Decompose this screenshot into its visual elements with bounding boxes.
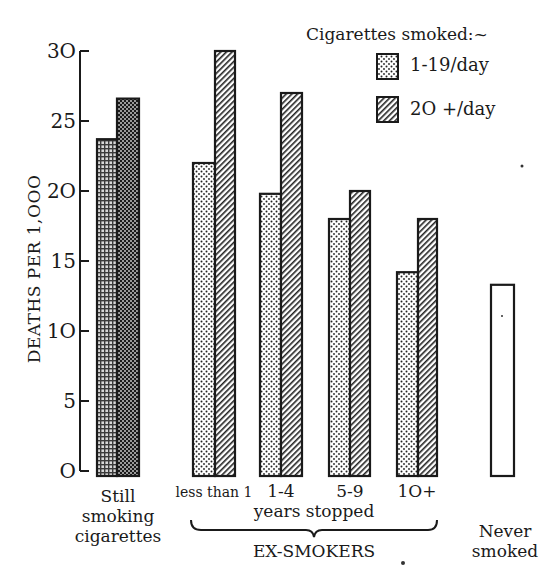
category-label-never-smoked: Never smoked (472, 521, 538, 561)
category-label-still-smoking: Still smoking cigarettes (75, 486, 162, 546)
bar-less-than-1-20-day (215, 51, 235, 476)
bar-never-smoked-never-smoked (491, 285, 514, 476)
bar-still-smoking-cigarettes-1-19-day (97, 139, 117, 476)
y-axis-label: DEATHS PER 1,OOO (24, 175, 44, 364)
legend-swatch-20plus (377, 97, 398, 122)
bar-5-9-1-19-day (329, 219, 350, 476)
category-label-5-9: 5-9 (336, 481, 363, 501)
ex-smokers-brace (191, 520, 437, 537)
ex-smokers-label: EX-SMOKERS (253, 541, 375, 561)
legend-title: Cigarettes smoked:~ (306, 24, 488, 44)
legend-label-1-19: 1-19/day (410, 54, 489, 75)
y-axis: O51O152O253O (47, 39, 89, 483)
legend-label-20plus: 2O +/day (410, 98, 496, 119)
bar-10--20-day (418, 219, 437, 476)
category-label-less-than-1: less than 1 (176, 482, 253, 502)
bar-5-9-20-day (350, 191, 370, 476)
y-tick-label: 15 (51, 249, 76, 273)
bar-still-smoking-cigarettes-20-day (117, 99, 139, 476)
category-label-10plus: 1O+ (398, 481, 437, 501)
y-tick-label: 25 (51, 109, 76, 133)
speck (521, 165, 524, 168)
bar-1-4-20-day (281, 93, 302, 476)
y-tick-label: O (60, 459, 76, 483)
legend (377, 54, 398, 122)
speck (501, 315, 503, 317)
bar-10--1-19-day (397, 272, 418, 476)
y-tick-label: 1O (47, 319, 76, 343)
legend-swatch-1-19 (377, 54, 398, 79)
y-tick-label: 2O (47, 179, 76, 203)
speck (401, 561, 405, 565)
years-stopped-label: years stopped (254, 501, 375, 521)
bar-less-than-1-1-19-day (193, 163, 215, 476)
y-tick-label: 3O (47, 39, 76, 63)
bar-1-4-1-19-day (260, 194, 281, 476)
category-label-1-4: 1-4 (267, 481, 294, 501)
y-tick-label: 5 (63, 389, 76, 413)
